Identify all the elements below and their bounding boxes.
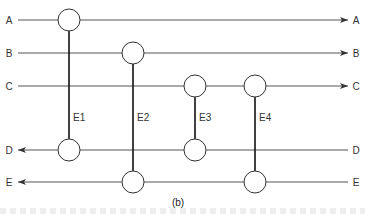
exchanger-node-E1-top — [58, 9, 80, 31]
exchanger-node-E3-top — [184, 75, 206, 97]
stream-label-left: B — [6, 48, 13, 59]
exchanger-label: E2 — [137, 112, 150, 123]
stream-label-right: A — [353, 15, 360, 26]
exchanger-node-E4-top — [244, 75, 266, 97]
stream-label-left: D — [5, 145, 12, 156]
heat-exchanger-network-diagram: AABBCCDDEEE1E2E3E4 (b) — [0, 0, 365, 214]
figure-caption: (b) — [172, 197, 184, 208]
stream-label-right: D — [352, 145, 359, 156]
exchanger-node-E3-bottom — [184, 139, 206, 161]
stream-label-right: E — [353, 177, 360, 188]
stream-label-right: B — [353, 48, 360, 59]
exchanger-node-E4-bottom — [244, 171, 266, 193]
stream-label-left: A — [6, 15, 13, 26]
exchanger-label: E1 — [73, 112, 86, 123]
stream-label-left: C — [5, 81, 12, 92]
exchanger-label: E3 — [199, 112, 212, 123]
exchanger-node-E2-bottom — [122, 171, 144, 193]
cropped-caption-text — [0, 208, 365, 214]
exchanger-node-E1-bottom — [58, 139, 80, 161]
stream-label-left: E — [6, 177, 13, 188]
exchanger-label: E4 — [259, 112, 272, 123]
stream-label-right: C — [352, 81, 359, 92]
exchanger-node-E2-top — [122, 42, 144, 64]
